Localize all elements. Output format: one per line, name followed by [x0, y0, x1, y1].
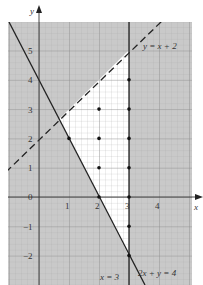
y-tick-4: 4 [28, 75, 33, 85]
y-tick-1: 1 [28, 163, 33, 173]
x-axis-label: x [193, 202, 198, 212]
y-tick-2: 2 [28, 134, 33, 144]
label-x-eq-3: x = 3 [99, 272, 120, 282]
y-tick-5: 5 [28, 46, 33, 56]
x-tick-2: 2 [95, 201, 100, 211]
y-tick-neg1: −1 [23, 222, 33, 232]
label-2x-plus-y-eq-4: 2x + y = 4 [138, 268, 177, 278]
label-y-eq-x-plus-2: y = x + 2 [142, 41, 177, 51]
y-tick-3: 3 [28, 105, 33, 115]
y-tick-neg2: −2 [23, 251, 33, 261]
x-tick-3: 3 [125, 201, 130, 211]
graph: y x 5 4 3 2 1 0 −1 −2 1 2 3 4 y = x + 2 … [0, 0, 203, 285]
coarse-grid [8, 22, 192, 285]
x-tick-1: 1 [65, 201, 70, 211]
y-axis-arrow-icon [36, 5, 42, 13]
x-tick-4: 4 [155, 201, 160, 211]
x-axis-arrow-icon [195, 194, 203, 200]
origin-label: 0 [28, 192, 33, 202]
y-axis-label: y [29, 6, 34, 16]
